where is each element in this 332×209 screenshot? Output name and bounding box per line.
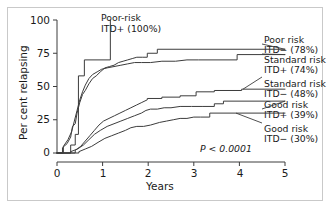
leader-line-4 <box>236 113 262 123</box>
leader-line-1 <box>262 54 285 55</box>
leader-line-2 <box>243 77 262 89</box>
axis-lines <box>53 20 285 166</box>
figure-root: 100 75 50 25 0 0 1 2 3 4 5 Per cent rela… <box>0 0 332 209</box>
leader-line-3 <box>262 101 285 109</box>
leader-lines <box>236 44 285 123</box>
leader-line-0 <box>262 44 285 49</box>
series-Standard risk ITD- (48%) <box>57 89 285 153</box>
series-Standard risk ITD+ (74%) <box>57 55 285 153</box>
series-Poor risk ITD+ (100%) <box>57 20 110 153</box>
plot-area <box>0 0 332 209</box>
series-lines <box>57 20 285 153</box>
series-Good risk ITD+ (39%) <box>57 101 285 153</box>
